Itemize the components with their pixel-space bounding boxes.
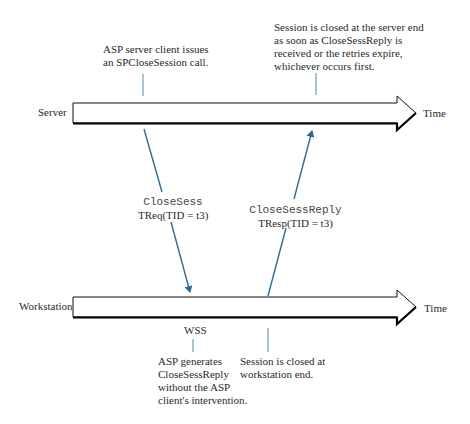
server-lane-label: Server xyxy=(38,106,67,119)
server-client-call-note: ASP server client issues an SPCloseSessi… xyxy=(103,43,209,69)
asp-generates-note: ASP generates CloseSessReply without the… xyxy=(158,355,247,407)
workstation-lane-label: Workstation xyxy=(19,300,73,313)
closesessreply-message-label: CloseSessReply TResp(TID = t3) xyxy=(243,204,348,230)
closesess-request-arrow-lower xyxy=(171,222,190,292)
workstation-close-note: Session is closed at workstation end. xyxy=(240,355,325,381)
closesess-message-label: CloseSess TReq(TID = t3) xyxy=(138,196,208,222)
workstation-timeline-arrow xyxy=(73,290,416,324)
server-close-note: Session is closed at the server end as s… xyxy=(274,21,424,73)
closesess-request-arrow xyxy=(144,129,162,192)
closesessreply-response-arrow-lower xyxy=(268,228,286,296)
workstation-time-label: Time xyxy=(424,302,447,315)
server-time-label: Time xyxy=(423,107,446,120)
closesessreply-response-arrow xyxy=(294,131,312,199)
server-timeline-arrow xyxy=(73,96,416,130)
wss-label: WSS xyxy=(184,324,207,337)
